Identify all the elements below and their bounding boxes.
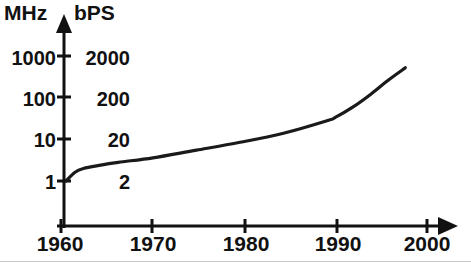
bottom-edge-artifact	[0, 261, 471, 262]
chart-plot-area	[0, 0, 471, 265]
chart-figure: MHz bPS 1000 2000 100 200 10 20 1 2 1960…	[0, 0, 471, 265]
x-axis-group	[57, 217, 458, 235]
y-axis-group	[56, 14, 72, 228]
data-series-line	[66, 68, 405, 181]
x-axis-arrow-icon	[438, 217, 458, 235]
y-axis-arrow-icon	[56, 14, 72, 33]
